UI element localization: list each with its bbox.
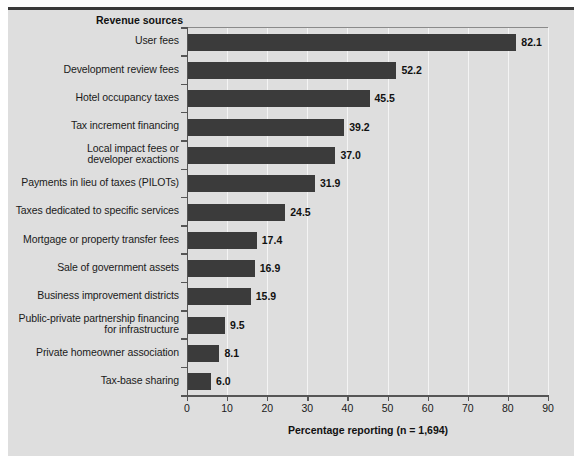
- xaxis-tick: [267, 396, 268, 401]
- xaxis-tick: [187, 396, 188, 401]
- yaxis-tick: [181, 140, 187, 142]
- yaxis-title: Revenue sources: [96, 14, 183, 26]
- bar: [187, 62, 396, 79]
- category-label: Development review fees: [0, 64, 179, 76]
- xaxis-tick: [468, 396, 469, 401]
- yaxis-tick: [181, 338, 187, 340]
- yaxis-tick: [181, 55, 187, 57]
- bar: [187, 175, 315, 192]
- bar-value-label: 24.5: [290, 204, 310, 221]
- yaxis-tick: [181, 84, 187, 86]
- xaxis-tick-label: 90: [528, 402, 568, 414]
- xaxis-tick-label: 0: [167, 402, 207, 414]
- plot-area: 82.152.245.539.237.031.924.517.416.915.9…: [187, 27, 548, 395]
- category-label: Mortgage or property transfer fees: [0, 234, 179, 246]
- yaxis-tick: [181, 310, 187, 312]
- bar: [187, 204, 285, 221]
- bar-value-label: 45.5: [375, 90, 395, 107]
- bar: [187, 147, 335, 164]
- gridline: [388, 28, 389, 396]
- xaxis-tick-label: 60: [408, 402, 448, 414]
- yaxis-spine: [187, 27, 189, 396]
- category-label: Tax increment financing: [0, 120, 179, 132]
- bar: [187, 288, 251, 305]
- bar-value-label: 17.4: [262, 232, 282, 249]
- xaxis-tick: [428, 396, 429, 401]
- bar: [187, 34, 516, 51]
- bar-value-label: 39.2: [349, 119, 369, 136]
- category-label-column: User feesDevelopment review feesHotel oc…: [0, 27, 183, 395]
- bar-value-label: 16.9: [260, 260, 280, 277]
- bar-value-label: 6.0: [216, 373, 231, 390]
- category-label: User fees: [0, 35, 179, 47]
- gridline: [347, 28, 348, 396]
- xaxis-tick: [227, 396, 228, 401]
- xaxis-tick: [307, 396, 308, 401]
- xaxis-tick-label: 80: [488, 402, 528, 414]
- bar: [187, 317, 225, 334]
- yaxis-tick: [181, 253, 187, 255]
- yaxis-tick: [181, 197, 187, 199]
- bar-value-label: 9.5: [230, 317, 245, 334]
- bar: [187, 119, 344, 136]
- category-label: Tax-base sharing: [0, 375, 179, 387]
- bar-value-label: 52.2: [401, 62, 421, 79]
- bar-value-label: 37.0: [340, 147, 360, 164]
- xaxis-tick: [548, 396, 549, 401]
- bar: [187, 373, 211, 390]
- category-label: Private homeowner association: [0, 347, 179, 359]
- xaxis-tick-label: 30: [287, 402, 327, 414]
- category-label: Sale of government assets: [0, 262, 179, 274]
- yaxis-title-container: Revenue sources: [0, 0, 183, 26]
- bar-value-label: 8.1: [224, 345, 239, 362]
- yaxis-tick: [181, 169, 187, 171]
- bar: [187, 260, 255, 277]
- category-label: Hotel occupancy taxes: [0, 92, 179, 104]
- xaxis-tick-label: 50: [368, 402, 408, 414]
- gridline: [428, 28, 429, 396]
- xaxis-tick-label: 70: [448, 402, 488, 414]
- yaxis-tick: [181, 112, 187, 114]
- bar-value-label: 15.9: [256, 288, 276, 305]
- xaxis-tick: [388, 396, 389, 401]
- category-label: Taxes dedicated to specific services: [0, 205, 179, 217]
- xaxis-tick-label: 20: [247, 402, 287, 414]
- bar: [187, 345, 219, 362]
- chart-figure: Revenue sources User feesDevelopment rev…: [0, 0, 582, 464]
- xaxis-tick: [508, 396, 509, 401]
- bar-value-label: 31.9: [320, 175, 340, 192]
- xaxis-tick: [347, 396, 348, 401]
- category-label: Public-private partnership financingfor …: [0, 313, 179, 336]
- gridline: [548, 28, 549, 396]
- bar-value-label: 82.1: [521, 34, 541, 51]
- xaxis-title: Percentage reporting (n = 1,694): [187, 424, 549, 436]
- xaxis-tick-label: 40: [327, 402, 367, 414]
- xaxis-tick-label: 10: [207, 402, 247, 414]
- category-label: Payments in lieu of taxes (PILOTs): [0, 177, 179, 189]
- gridline: [468, 28, 469, 396]
- bar: [187, 90, 370, 107]
- category-label: Local impact fees ordeveloper exactions: [0, 143, 179, 166]
- yaxis-tick: [181, 282, 187, 284]
- yaxis-tick: [181, 225, 187, 227]
- category-label: Business improvement districts: [0, 290, 179, 302]
- xaxis-spine: [187, 395, 549, 397]
- bar: [187, 232, 257, 249]
- yaxis-tick: [181, 367, 187, 369]
- gridline: [508, 28, 509, 396]
